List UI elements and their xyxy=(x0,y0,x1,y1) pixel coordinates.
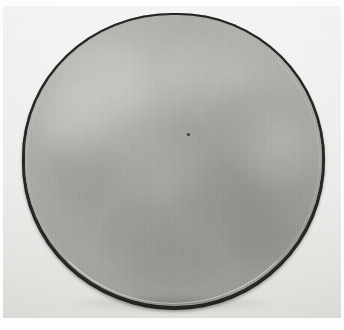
photo-plate xyxy=(3,6,341,318)
page-margin-bottom xyxy=(0,318,344,330)
scale-bar-label xyxy=(0,0,1,1)
specimen-mottling xyxy=(25,16,321,306)
image-caption xyxy=(0,0,1,1)
image-description: Photograph of a round gray specimen disc… xyxy=(0,0,1,1)
specimen-surface-texture xyxy=(25,16,322,306)
circular-specimen xyxy=(22,13,325,310)
specimen-face xyxy=(25,16,322,306)
specimen-label xyxy=(0,0,1,1)
specimen-photograph: Photograph of a round gray specimen disc… xyxy=(0,0,344,330)
